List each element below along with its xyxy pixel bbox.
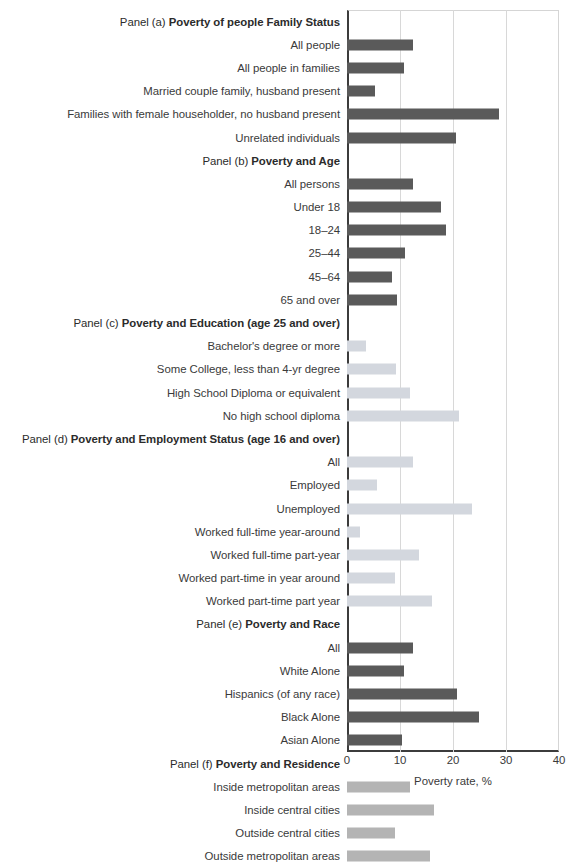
- bar-label: 25–44: [0, 247, 347, 259]
- bar: [347, 387, 410, 398]
- bar: [347, 503, 472, 514]
- bar-row: All people in families: [0, 56, 574, 79]
- bar-row: Outside central cities: [0, 822, 574, 845]
- bar-label: Black Alone: [0, 711, 347, 723]
- bar-track: [347, 381, 574, 404]
- bar-track: [347, 172, 574, 195]
- bar: [347, 132, 456, 143]
- bar-label: Employed: [0, 479, 347, 491]
- bar-label: Outside central cities: [0, 827, 347, 839]
- x-tick-10: 10: [394, 754, 407, 766]
- bar-label: All: [0, 642, 347, 654]
- bar: [347, 341, 366, 352]
- panel-header-spacer: [347, 427, 574, 450]
- bar-row: Black Alone: [0, 706, 574, 729]
- bar-row: Worked full-time year-around: [0, 520, 574, 543]
- bar-track: [347, 80, 574, 103]
- bar-track: [347, 288, 574, 311]
- bar-track: [347, 520, 574, 543]
- bar: [347, 573, 395, 584]
- bar-label: Asian Alone: [0, 734, 347, 746]
- bar: [347, 178, 413, 189]
- bar-row: Inside central cities: [0, 798, 574, 821]
- bar-track: [347, 103, 574, 126]
- bar-row: No high school diploma: [0, 404, 574, 427]
- bar-label: Inside central cities: [0, 804, 347, 816]
- bar-track: [347, 56, 574, 79]
- bar-track: [347, 729, 574, 752]
- bar-label: Worked full-time year-around: [0, 526, 347, 538]
- bar-row: Unrelated individuals: [0, 126, 574, 149]
- bar: [347, 665, 404, 676]
- panel-title: Panel (a) Poverty of people Family Statu…: [0, 16, 347, 28]
- bar-label: Unemployed: [0, 503, 347, 515]
- bar-track: [347, 242, 574, 265]
- bar-row: Worked part-time part year: [0, 590, 574, 613]
- bar-track: [347, 659, 574, 682]
- bar-label: 65 and over: [0, 294, 347, 306]
- bar: [347, 294, 397, 305]
- bar: [347, 225, 446, 236]
- panel-header-panelb: Panel (b) Poverty and Age: [0, 149, 574, 172]
- bar-track: [347, 567, 574, 590]
- panel-header-panela: Panel (a) Poverty of people Family Statu…: [0, 10, 574, 33]
- bar-track: [347, 590, 574, 613]
- bar-label: All people in families: [0, 62, 347, 74]
- bar-row: Unemployed: [0, 497, 574, 520]
- bar-label: Worked full-time part-year: [0, 549, 347, 561]
- bar: [347, 248, 405, 259]
- bar-label: Worked part-time part year: [0, 595, 347, 607]
- x-tick-0: 0: [344, 754, 350, 766]
- x-axis-title: Poverty rate, %: [347, 775, 559, 787]
- bar-track: [347, 543, 574, 566]
- panel-header-spacer: [347, 311, 574, 334]
- bar-track: [347, 451, 574, 474]
- bar-row: 18–24: [0, 219, 574, 242]
- chart-rows: Panel (a) Poverty of people Family Statu…: [0, 10, 574, 752]
- x-tick-40: 40: [553, 754, 566, 766]
- bar: [347, 735, 402, 746]
- panel-header-panele: Panel (e) Poverty and Race: [0, 613, 574, 636]
- bar-label: Worked part-time in year around: [0, 572, 347, 584]
- bar-track: [347, 33, 574, 56]
- bar: [347, 457, 413, 468]
- bar: [347, 851, 430, 862]
- bar: [347, 549, 419, 560]
- bar-label: Bachelor's degree or more: [0, 340, 347, 352]
- bar-row: 45–64: [0, 265, 574, 288]
- bar: [347, 39, 413, 50]
- bar-row: Hispanics (of any race): [0, 682, 574, 705]
- bar-label: All persons: [0, 178, 347, 190]
- bar-row: Under 18: [0, 196, 574, 219]
- bar-row: White Alone: [0, 659, 574, 682]
- bar: [347, 271, 392, 282]
- bar: [347, 410, 459, 421]
- bar-row: All: [0, 636, 574, 659]
- bar-row: Bachelor's degree or more: [0, 335, 574, 358]
- bar-row: Some College, less than 4-yr degree: [0, 358, 574, 381]
- bar: [347, 86, 375, 97]
- bar-row: All people: [0, 33, 574, 56]
- bar-track: [347, 706, 574, 729]
- bar-label: No high school diploma: [0, 410, 347, 422]
- x-tick-30: 30: [500, 754, 513, 766]
- bar-track: [347, 335, 574, 358]
- bar-label: 18–24: [0, 224, 347, 236]
- bar-track: [347, 822, 574, 845]
- bar-track: [347, 636, 574, 659]
- x-tick-20: 20: [447, 754, 460, 766]
- bar-row: Worked part-time in year around: [0, 567, 574, 590]
- bar: [347, 526, 360, 537]
- bar-row: All persons: [0, 172, 574, 195]
- panel-header-panelc: Panel (c) Poverty and Education (age 25 …: [0, 311, 574, 334]
- bar-track: [347, 219, 574, 242]
- bar: [347, 712, 479, 723]
- panel-title: Panel (d) Poverty and Employment Status …: [0, 433, 347, 445]
- bar-track: [347, 798, 574, 821]
- bar-label: All: [0, 456, 347, 468]
- bar-row: Worked full-time part-year: [0, 543, 574, 566]
- panel-header-spacer: [347, 613, 574, 636]
- panel-header-spacer: [347, 10, 574, 33]
- bar: [347, 596, 432, 607]
